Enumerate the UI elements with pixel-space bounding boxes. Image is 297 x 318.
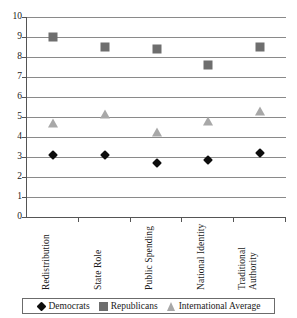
y-axis-tick-mark [22,117,26,118]
y-axis-tick-label: 7 [2,72,22,82]
data-point-republicans [48,33,57,42]
x-axis-category-state-role: State Role [78,224,130,290]
y-axis-tick-label: 8 [2,52,22,62]
x-axis-category-public-spending: Public Spending [130,224,182,290]
gridline [27,177,286,178]
y-axis-tick-label: 5 [2,112,22,122]
gridline [27,97,286,98]
data-point-democrats [48,150,58,160]
y-axis-tick-label: 0 [2,212,22,222]
data-point-international-average [152,128,162,137]
diamond-marker-icon [37,302,46,311]
y-axis-tick-label: 1 [2,192,22,202]
legend-entry-republicans[interactable]: Republicans [99,301,158,311]
data-point-international-average [255,107,265,116]
x-axis-tick-label: State Role [93,250,104,290]
y-axis-tick-mark [22,177,26,178]
y-axis-tick-mark [22,37,26,38]
y-axis-label-group: 109876543210 [0,0,22,318]
x-axis-tick-mark [233,217,234,222]
gridline [27,57,286,58]
x-axis-tick-label: Traditional Authority [237,224,259,290]
y-axis-tick-mark [22,157,26,158]
gridline [27,137,286,138]
y-axis-tick-label: 10 [2,12,22,22]
legend-entry-democrats[interactable]: Democrats [37,301,90,311]
plot-area [26,17,286,218]
y-axis-tick-mark [22,137,26,138]
y-axis-tick-mark [22,197,26,198]
x-axis-tick-mark [78,217,79,222]
data-point-republicans [256,43,265,52]
y-axis-tick-label: 6 [2,92,22,102]
y-axis-tick-mark [22,57,26,58]
legend-label: International Average [179,301,261,311]
y-axis-tick-label: 3 [2,152,22,162]
x-axis-tick-mark [181,217,182,222]
scatter-chart-figure: 109876543210 RedistributionState RolePub… [0,0,297,318]
y-axis-tick-label: 4 [2,132,22,142]
x-axis-tick-label: Public Spending [144,226,155,290]
gridline [27,117,286,118]
data-point-international-average [203,117,213,126]
gridline [27,197,286,198]
legend-label: Democrats [49,301,90,311]
data-point-international-average [100,110,110,119]
triangle-marker-icon [167,302,176,311]
data-point-republicans [100,43,109,52]
square-marker-icon [99,302,108,311]
y-axis-tick-label: 9 [2,32,22,42]
chart-legend: DemocratsRepublicansInternational Averag… [22,298,275,314]
legend-label: Republicans [111,301,158,311]
x-axis-tick-mark [285,217,286,222]
gridline [27,17,286,18]
data-point-republicans [204,61,213,70]
x-axis-category-national-identity: National Identity [181,224,233,290]
x-axis-tick-label: Redistribution [41,234,52,290]
x-axis-tick-mark [130,217,131,222]
gridline [27,77,286,78]
y-axis-tick-mark [22,97,26,98]
x-axis-tick-label: National Identity [196,224,207,290]
y-axis-tick-mark [22,77,26,78]
x-axis-label-group: RedistributionState RolePublic SpendingN… [26,224,285,290]
gridline [27,37,286,38]
y-axis-tick-mark [22,17,26,18]
data-point-republicans [152,45,161,54]
data-point-democrats [152,158,162,168]
y-axis-tick-mark [22,217,26,218]
legend-entry-international-average[interactable]: International Average [167,301,261,311]
data-point-democrats [100,150,110,160]
x-axis-category-redistribution: Redistribution [26,224,78,290]
y-axis-tick-label: 2 [2,172,22,182]
x-axis-category-traditional-authority: Traditional Authority [233,224,285,290]
data-point-international-average [48,119,58,128]
